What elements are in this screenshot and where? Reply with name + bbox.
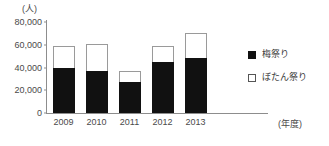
bar-segment-botan xyxy=(185,33,207,58)
x-axis-tick-label: 2013 xyxy=(176,117,216,127)
bar-stack xyxy=(86,44,108,113)
y-axis-tick-label: 20,000 xyxy=(14,86,47,95)
bar-series-layer xyxy=(47,22,212,113)
bar-segment-botan xyxy=(86,44,108,72)
bar-segment-ume xyxy=(53,68,75,113)
bar-stack xyxy=(53,46,75,113)
bar-segment-botan xyxy=(152,46,174,62)
bar-stack xyxy=(152,46,174,113)
filled-square-icon xyxy=(248,51,256,59)
x-axis-unit-label: (年度) xyxy=(278,117,302,130)
y-axis-tick-label: 80,000 xyxy=(14,18,47,27)
legend-label: 梅祭り xyxy=(262,50,289,59)
bar-segment-ume xyxy=(185,58,207,113)
plot-area: 80,00060,00040,00020,0000 xyxy=(47,22,212,113)
x-axis-line xyxy=(46,113,268,114)
bar-segment-ume xyxy=(86,71,108,113)
bar-stack xyxy=(185,33,207,113)
open-square-icon xyxy=(248,74,256,82)
bar-segment-ume xyxy=(119,82,141,113)
bar-segment-botan xyxy=(119,71,141,82)
legend-item-botan: ぼたん祭り xyxy=(248,73,307,82)
y-axis-unit-label: (人) xyxy=(22,2,37,15)
bar-stack xyxy=(119,71,141,113)
bar-segment-ume xyxy=(152,62,174,113)
y-axis-tick-label: 40,000 xyxy=(14,63,47,72)
legend-label: ぼたん祭り xyxy=(262,73,307,82)
legend-item-ume: 梅祭り xyxy=(248,50,307,59)
stacked-bar-chart: (人) 80,00060,00040,00020,0000 2009201020… xyxy=(0,0,329,146)
bar-segment-botan xyxy=(53,46,75,68)
y-axis-tick-label: 60,000 xyxy=(14,40,47,49)
chart-legend: 梅祭り ぼたん祭り xyxy=(248,50,307,82)
